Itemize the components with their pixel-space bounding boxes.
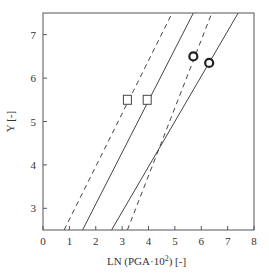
series-line-solid-right bbox=[112, 13, 239, 230]
chart: 012345678 34567 LN (PGA·102) [-] Y [-] bbox=[0, 0, 269, 278]
y-tick-label: 5 bbox=[31, 116, 37, 128]
circle-marker bbox=[205, 59, 213, 67]
series-line-dashed-right bbox=[127, 13, 211, 230]
x-tick-label: 2 bbox=[93, 235, 99, 247]
circle-marker bbox=[189, 52, 197, 60]
x-tick-label: 1 bbox=[67, 235, 73, 247]
x-axis-label: LN (PGA·102) [-] bbox=[107, 254, 186, 268]
x-axis: 012345678 bbox=[40, 226, 257, 247]
chart-canvas: 012345678 34567 LN (PGA·102) [-] Y [-] bbox=[0, 0, 269, 278]
x-tick-label: 4 bbox=[146, 235, 152, 247]
y-axis: 34567 bbox=[31, 29, 48, 215]
square-marker bbox=[143, 95, 151, 104]
plot-frame bbox=[43, 13, 254, 230]
y-tick-label: 6 bbox=[31, 72, 37, 84]
x-tick-label: 8 bbox=[251, 235, 257, 247]
x-tick-label: 7 bbox=[225, 235, 231, 247]
y-tick-label: 3 bbox=[31, 202, 37, 214]
x-tick-label: 0 bbox=[40, 235, 46, 247]
series-line-dashed-left bbox=[64, 13, 172, 230]
plot-lines bbox=[64, 13, 238, 230]
x-tick-label: 5 bbox=[172, 235, 178, 247]
x-tick-label: 3 bbox=[119, 235, 125, 247]
y-axis-label: Y [-] bbox=[4, 111, 16, 132]
series-line-solid-left bbox=[83, 13, 194, 230]
y-tick-label: 4 bbox=[31, 159, 37, 171]
square-marker bbox=[123, 95, 131, 104]
x-tick-label: 6 bbox=[199, 235, 205, 247]
y-tick-label: 7 bbox=[31, 29, 37, 41]
